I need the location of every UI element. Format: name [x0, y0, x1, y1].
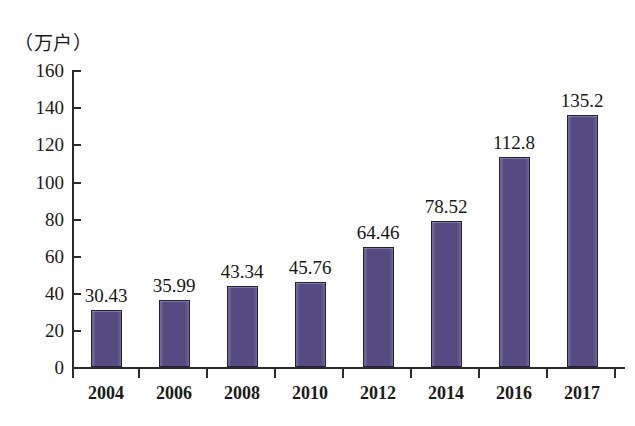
bar-value-label: 45.76 [267, 258, 353, 278]
y-axis-tick [72, 330, 81, 332]
x-axis-label-2008: 2008 [207, 383, 277, 403]
y-axis-tick [72, 70, 81, 72]
bar-2016 [499, 157, 530, 367]
bar-value-label: 112.8 [471, 133, 557, 153]
y-axis-tick [72, 182, 81, 184]
bar-2010 [295, 282, 326, 367]
y-axis-tick-label: 140 [4, 98, 64, 117]
x-axis-tick [138, 369, 140, 378]
x-axis-tick [206, 369, 208, 378]
bar-value-label: 64.46 [335, 223, 421, 243]
y-axis-tick-label: 120 [4, 135, 64, 154]
y-axis-tick-label: 40 [4, 284, 64, 303]
y-axis-tick-label: 80 [4, 210, 64, 229]
x-axis-line [72, 367, 625, 369]
x-axis-label-2012: 2012 [343, 383, 413, 403]
bar-chart: （万户） 160 140 120 100 80 60 40 20 0 30.43… [0, 0, 635, 426]
y-axis-tick-label: 60 [4, 247, 64, 266]
x-axis-tick [410, 369, 412, 378]
y-axis-tick-label: 20 [4, 321, 64, 340]
x-axis-label-2004: 2004 [71, 383, 141, 403]
bar-2017 [567, 115, 598, 367]
x-axis-label-2016: 2016 [479, 383, 549, 403]
bar-value-label: 135.2 [539, 91, 625, 111]
bar-2006 [159, 300, 190, 367]
y-axis-tick-label: 100 [4, 173, 64, 192]
bar-2004 [91, 310, 122, 367]
x-axis-tick [342, 369, 344, 378]
y-axis-unit-caption: （万户） [14, 28, 92, 55]
x-axis-tick [72, 369, 74, 378]
bar-value-label: 78.52 [403, 197, 489, 217]
bar-2012 [363, 247, 394, 367]
x-axis-tick [546, 369, 548, 378]
y-axis-tick [72, 144, 81, 146]
y-axis-tick-label: 0 [4, 358, 64, 377]
x-axis-tick [614, 369, 616, 378]
x-axis-label-2017: 2017 [547, 383, 617, 403]
bar-2008 [227, 286, 258, 367]
x-axis-label-2014: 2014 [411, 383, 481, 403]
x-axis-label-2006: 2006 [139, 383, 209, 403]
x-axis-label-2010: 2010 [275, 383, 345, 403]
y-axis-tick [72, 219, 81, 221]
x-axis-tick [274, 369, 276, 378]
bar-2014 [431, 221, 462, 367]
y-axis-tick-label: 160 [4, 61, 64, 80]
x-axis-tick [478, 369, 480, 378]
y-axis-tick [72, 256, 81, 258]
y-axis-tick [72, 107, 81, 109]
